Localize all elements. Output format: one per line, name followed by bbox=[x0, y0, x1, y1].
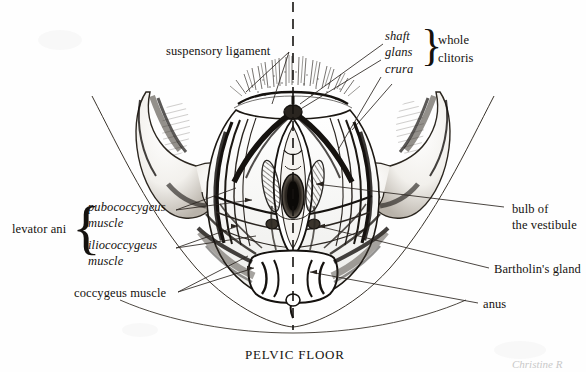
pelvic-floor-illustration bbox=[0, 0, 586, 372]
label-anus: anus bbox=[483, 297, 506, 311]
caption-pelvic-floor: PELVIC FLOOR bbox=[245, 348, 345, 362]
label-shaft: shaft bbox=[385, 29, 410, 43]
label-levator-ani: levator ani bbox=[12, 222, 66, 236]
label-crura: crura bbox=[385, 62, 413, 76]
label-bulb-of: bulb of bbox=[512, 202, 548, 216]
label-coccygeus-muscle: coccygeus muscle bbox=[74, 286, 166, 300]
label-the-vestibule: the vestibule bbox=[512, 218, 577, 232]
label-iliococcygeus-muscle: muscle bbox=[88, 254, 123, 268]
label-iliococcygeus: iliococcygeus bbox=[88, 238, 157, 252]
label-clitoris: clitoris bbox=[438, 51, 474, 65]
label-suspensory-ligament: suspensory ligament bbox=[166, 44, 270, 58]
label-glans: glans bbox=[385, 45, 413, 59]
label-whole: whole bbox=[438, 33, 469, 47]
label-bartholins-gland: Bartholin's gland bbox=[494, 262, 581, 276]
label-pubococcygeus: pubococcygeus bbox=[88, 200, 166, 214]
artist-signature: Christine R bbox=[512, 358, 562, 370]
label-pubococcygeus-muscle: muscle bbox=[88, 216, 123, 230]
